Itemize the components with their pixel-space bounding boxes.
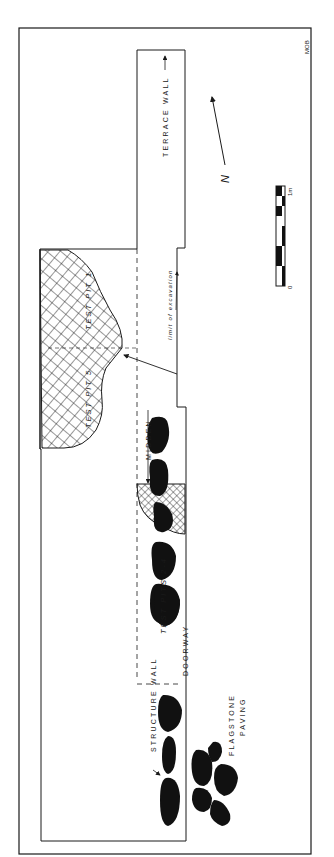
scale-start-label: 0 (287, 285, 293, 289)
scale-end-label: 1m (287, 188, 293, 196)
limit-arrow (124, 355, 177, 374)
test-pit-1-label: TEST PIT 1 (84, 271, 93, 330)
site-plan: N 0 1m TERRACE WALL TEST PIT 1 TEST PIT … (0, 0, 334, 857)
test-pit-5-label: TEST PIT 5 (84, 369, 93, 428)
midden-label: MIDDEN (145, 419, 152, 460)
doorway-label: DOORWAY (182, 625, 189, 676)
initials-label: MOB (304, 40, 310, 54)
test-pits-2-4-label: TEST PITS 2-4 (159, 557, 168, 634)
terrace-wall-label: TERRACE WALL (162, 76, 169, 157)
test-pit-1-5-hatch (40, 250, 122, 448)
paving-label: PAVING (239, 697, 246, 736)
scale-bar: 0 1m (276, 186, 293, 289)
north-arrow: N (212, 97, 231, 183)
flagstone-label: FLAGSTONE (228, 694, 235, 756)
structure-wall-label: STRUCTURE WALL (150, 657, 157, 752)
limit-of-excavation-label: limit of excavation (167, 270, 173, 341)
north-label: N (219, 175, 231, 183)
